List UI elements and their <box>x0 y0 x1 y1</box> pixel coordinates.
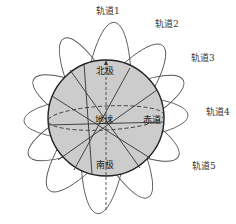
earth-label: 地球 <box>95 115 113 125</box>
orbit-diagram: 轨道1 轨道2 轨道3 轨道4 轨道5 北极 地球 赤道 南极 <box>0 0 236 224</box>
orbit-label-1: 轨道1 <box>96 6 120 16</box>
south-pole-label: 南极 <box>96 160 114 170</box>
north-pole-label: 北极 <box>96 66 114 76</box>
equator-label: 赤道 <box>143 115 161 125</box>
orbit-diagram-graphic <box>0 0 236 224</box>
orbit-label-4: 轨道4 <box>206 107 230 117</box>
orbit-label-3: 轨道3 <box>191 53 215 63</box>
orbit-label-5: 轨道5 <box>192 161 216 171</box>
orbit-label-2: 轨道2 <box>155 19 179 29</box>
